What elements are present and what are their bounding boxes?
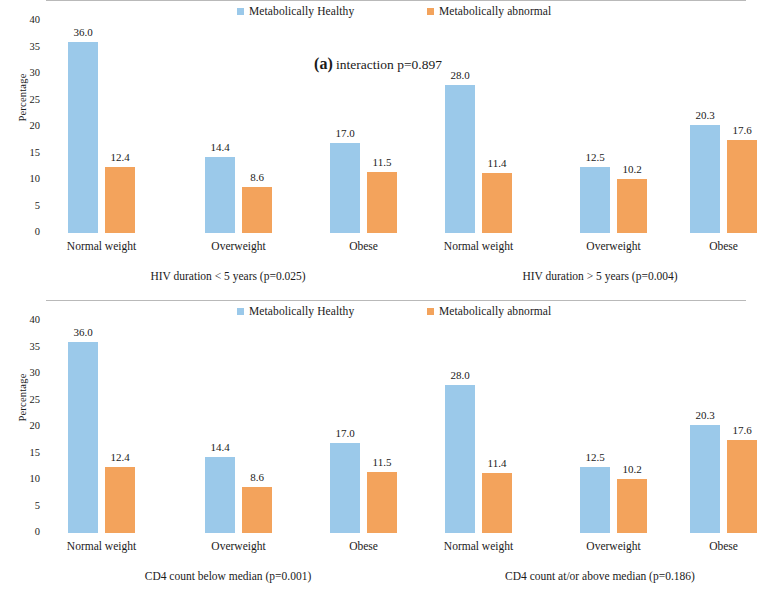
bar [727,140,757,233]
bar [105,167,135,233]
bar [367,472,397,533]
bar-value-label: 36.0 [63,27,103,38]
x-axis-group-label: HIV duration > 5 years (p=0.004) [450,271,750,283]
y-axis-tick-label: 10 [16,474,40,485]
chart-panel-b: Metabolically Healthy Metabolically abno… [0,300,757,600]
x-axis-baseline [46,0,746,1]
y-axis-tick-label: 25 [16,395,40,406]
bar [482,173,512,233]
x-axis-category-label: Obese [309,541,419,553]
bar [367,172,397,233]
x-axis-category-label: Obese [669,541,757,553]
x-axis-group-label: HIV duration < 5 years (p=0.025) [78,271,378,283]
chart-panel-a: Metabolically Healthy Metabolically abno… [0,0,757,300]
bar-value-label: 8.6 [237,472,277,483]
y-axis-tick-label: 40 [16,315,40,326]
x-axis-category-label: Normal weight [424,541,534,553]
bar [68,342,98,533]
panel-tag: (a) [314,55,333,72]
y-axis-tick-label: 20 [16,121,40,132]
y-axis-tick-label: 30 [16,368,40,379]
bar [105,467,135,533]
panel-title-a: (a) interaction p=0.897 [228,56,528,72]
bar-value-label: 28.0 [440,370,480,381]
x-axis-group-label: CD4 count at/or above median (p=0.186) [450,571,750,583]
bar [690,425,720,533]
bar [242,487,272,533]
bar [617,179,647,233]
y-axis-tick-label: 15 [16,148,40,159]
x-axis-category-label: Obese [309,241,419,253]
x-axis-group-label: CD4 count below median (p=0.001) [78,571,378,583]
x-axis-category-label: Overweight [559,541,669,553]
y-axis-tick-label: 0 [16,227,40,238]
bar [617,479,647,533]
x-axis-category-label: Overweight [184,241,294,253]
x-axis-category-label: Overweight [559,241,669,253]
bar [580,467,610,533]
bar [445,385,475,533]
plot-area-b: Percentage 403530252015105036.012.4Norma… [0,300,757,600]
bar-value-label: 17.6 [722,125,757,136]
bar [330,443,360,533]
y-axis-tick-label: 20 [16,421,40,432]
x-axis-category-label: Normal weight [47,241,157,253]
bar-value-label: 17.0 [325,428,365,439]
bar-value-label: 14.4 [200,142,240,153]
bar-value-label: 20.3 [685,110,725,121]
y-axis-tick-label: 35 [16,42,40,53]
bar-value-label: 36.0 [63,327,103,338]
bar-value-label: 12.4 [100,452,140,463]
bar-value-label: 12.5 [575,152,615,163]
bar [690,125,720,233]
bar [580,167,610,233]
y-axis-tick-label: 25 [16,95,40,106]
bar-value-label: 20.3 [685,410,725,421]
bar-value-label: 12.4 [100,152,140,163]
y-axis-tick-label: 15 [16,448,40,459]
bar-value-label: 17.0 [325,128,365,139]
bar [205,457,235,533]
y-axis-tick-label: 5 [16,501,40,512]
bar-value-label: 11.5 [362,457,402,468]
bar-value-label: 11.4 [477,158,517,169]
bar [68,42,98,233]
bar-value-label: 11.4 [477,458,517,469]
bar [205,157,235,233]
bar-value-label: 17.6 [722,425,757,436]
panel-title-text: interaction p=0.897 [336,57,442,72]
y-axis-tick-label: 10 [16,174,40,185]
bar-value-label: 12.5 [575,452,615,463]
y-axis-tick-label: 40 [16,15,40,26]
bar-value-label: 11.5 [362,157,402,168]
bar [482,473,512,533]
bar [242,187,272,233]
x-axis-category-label: Overweight [184,541,294,553]
bar [727,440,757,533]
bar [330,143,360,233]
x-axis-category-label: Normal weight [47,541,157,553]
bar [445,85,475,233]
plot-area-a: Percentage 403530252015105036.012.4Norma… [0,0,757,300]
bar-value-label: 10.2 [612,464,652,475]
bar-value-label: 10.2 [612,164,652,175]
y-axis-tick-label: 0 [16,527,40,538]
bar-value-label: 14.4 [200,442,240,453]
x-axis-baseline [46,300,746,301]
y-axis-tick-label: 5 [16,201,40,212]
bar-value-label: 8.6 [237,172,277,183]
y-axis-tick-label: 30 [16,68,40,79]
x-axis-category-label: Normal weight [424,241,534,253]
y-axis-tick-label: 35 [16,342,40,353]
x-axis-category-label: Obese [669,241,757,253]
